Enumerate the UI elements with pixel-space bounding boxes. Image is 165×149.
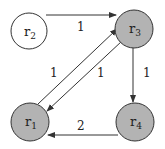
node-r4: r4: [116, 103, 154, 141]
graph-diagram: 1 1 1 1 2 r2 r3 r1 r4: [0, 0, 165, 149]
edge-r3-r1: [47, 41, 122, 111]
node-r2: r2: [11, 13, 47, 49]
edge-label-r3-r4: 1: [143, 66, 151, 80]
edge-label-r3-r1: 1: [97, 66, 105, 80]
edge-label-r2-r3: 1: [77, 20, 85, 34]
edge-label-r1-r3: 1: [50, 66, 58, 80]
node-r3: r3: [115, 10, 153, 48]
edge-label-r4-r1: 2: [77, 119, 85, 133]
node-r1: r1: [11, 103, 49, 141]
